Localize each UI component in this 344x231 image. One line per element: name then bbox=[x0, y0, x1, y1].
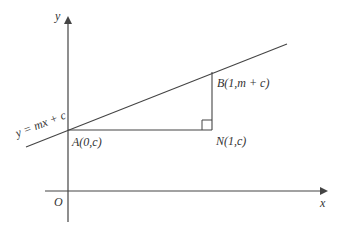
right-angle-marker bbox=[202, 120, 212, 130]
line-y-mx-c bbox=[26, 44, 287, 147]
x-axis-label: x bbox=[320, 197, 325, 209]
point-A-label: A(0,c) bbox=[72, 136, 102, 148]
point-N-label: N(1,c) bbox=[216, 135, 246, 147]
point-B-label: B(1,m + c) bbox=[217, 77, 269, 89]
origin-label: O bbox=[54, 196, 63, 208]
y-axis-label: y bbox=[55, 10, 60, 22]
